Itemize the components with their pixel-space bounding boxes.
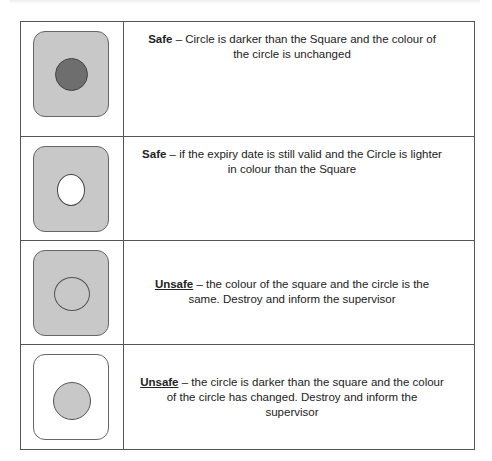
table-row: Unsafe – the colour of the square and th… (21, 241, 475, 345)
table-row: Safe – Circle is darker than the Square … (21, 22, 475, 137)
description-cell: Safe – if the expiry date is still valid… (124, 137, 475, 241)
indicator-square (33, 31, 109, 117)
description-cell: Unsafe – the circle is darker than the s… (124, 345, 475, 450)
indicator-circle-light (53, 382, 91, 420)
description-cell: Safe – Circle is darker than the Square … (124, 22, 475, 137)
status-label-unsafe: Unsafe (140, 376, 178, 388)
indicator-cell (21, 137, 124, 241)
indicator-cell (21, 22, 124, 137)
indicator-guide-table: Safe – Circle is darker than the Square … (20, 21, 475, 450)
description-text: – Circle is darker than the Square and t… (172, 33, 435, 60)
status-label-safe: Safe (148, 33, 172, 45)
status-label-unsafe: Unsafe (155, 278, 193, 290)
status-label-safe: Safe (142, 148, 166, 160)
indicator-square (33, 146, 109, 232)
indicator-cell (21, 241, 124, 345)
indicator-square (33, 354, 109, 440)
description-text: – the colour of the square and the circl… (188, 278, 429, 305)
cropped-heading-text (10, 0, 480, 4)
indicator-cell (21, 345, 124, 450)
description-text: – if the expiry date is still valid and … (166, 148, 441, 175)
indicator-square (33, 250, 109, 336)
table-row: Unsafe – the circle is darker than the s… (21, 345, 475, 450)
description-text: – the circle is darker than the square a… (167, 376, 444, 418)
indicator-circle-same (54, 277, 90, 311)
indicator-circle-white (57, 174, 85, 206)
indicator-circle-dark (55, 58, 88, 91)
table-row: Safe – if the expiry date is still valid… (21, 137, 475, 241)
description-cell: Unsafe – the colour of the square and th… (124, 241, 475, 345)
